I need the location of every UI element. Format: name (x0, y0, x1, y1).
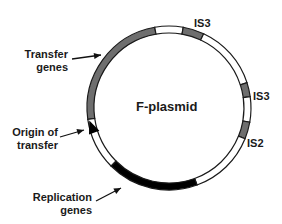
blank-segment-3 (195, 136, 245, 185)
label-origin-line1: Origin of (6, 126, 58, 139)
blank-segment-2 (243, 97, 251, 123)
replication-pointer (96, 188, 121, 201)
label-origin-of-transfer: Origin of transfer (6, 126, 58, 152)
label-transfer-line2: genes (20, 61, 68, 74)
plasmid-title: F-plasmid (136, 99, 197, 114)
origin-pointer (60, 129, 84, 137)
blank-segment-1 (201, 34, 247, 85)
is3-right-segment (240, 83, 250, 98)
label-is2: IS2 (247, 137, 264, 150)
label-origin-line2: transfer (6, 139, 58, 152)
replication-genes-segment (111, 161, 197, 190)
label-replication-line2: genes (24, 204, 92, 217)
is3-top-segment (155, 26, 183, 34)
label-replication-genes: Replication genes (24, 191, 92, 217)
label-replication-line1: Replication (24, 191, 92, 204)
label-is3-right: IS3 (253, 90, 270, 103)
label-transfer-genes: Transfer genes (20, 48, 68, 74)
transfer-genes-pointer (72, 53, 101, 59)
label-is3-top: IS3 (194, 17, 211, 30)
label-transfer-line1: Transfer (20, 48, 68, 61)
